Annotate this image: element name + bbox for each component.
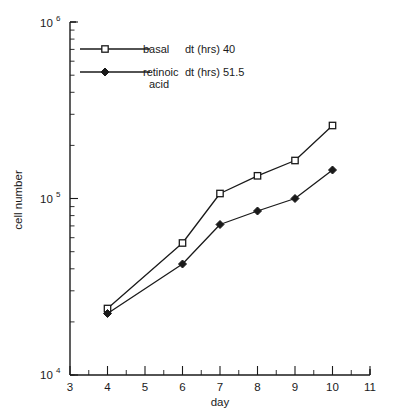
legend-marker-retinoic [101, 68, 109, 76]
x-axis-major-ticks [70, 366, 370, 375]
legend-marker-basal [102, 46, 108, 52]
y-axis-tick-labels: 10 6 10 5 10 4 [40, 14, 61, 381]
data-point-basal-day9 [292, 157, 298, 163]
y-tick-label-1e4-base: 10 [40, 369, 53, 381]
legend-label-retinoic-line2: acid [149, 78, 169, 90]
x-axis-tick-labels: 3 4 5 6 7 8 9 10 11 [67, 381, 376, 393]
legend-label-basal: basal [143, 43, 169, 55]
chart-legend: basal dt (hrs) 40 retinoic acid dt (hrs)… [80, 43, 244, 90]
y-tick-label-1e6-exponent: 6 [56, 14, 61, 23]
y-tick-label-1e5-exponent: 5 [56, 190, 61, 199]
data-point-basal-day10 [329, 122, 335, 128]
x-tick-label-7: 7 [217, 381, 223, 393]
legend-label-retinoic-line1: retinoic [143, 66, 179, 78]
data-point-basal-day6 [179, 240, 185, 246]
legend-dt-basal: dt (hrs) 40 [185, 43, 235, 55]
x-tick-label-6: 6 [179, 381, 185, 393]
y-tick-label-1e6-base: 10 [40, 17, 53, 29]
y-axis-title: cell number [12, 170, 24, 230]
x-tick-label-3: 3 [67, 381, 73, 393]
x-tick-label-10: 10 [326, 381, 339, 393]
x-tick-label-8: 8 [254, 381, 260, 393]
data-point-basal-day7 [217, 190, 223, 196]
x-tick-label-4: 4 [104, 381, 111, 393]
y-tick-label-1e5-base: 10 [40, 193, 53, 205]
x-tick-label-11: 11 [364, 381, 376, 393]
series-retinoic-acid [104, 166, 337, 318]
legend-dt-retinoic: dt (hrs) 51.5 [185, 66, 244, 78]
chart-figure: 10 6 10 5 10 4 3 4 5 6 7 8 9 10 11 day c… [0, 0, 399, 414]
y-tick-label-1e4-exponent: 4 [56, 366, 61, 375]
x-tick-label-5: 5 [142, 381, 148, 393]
data-point-retinoic-day8 [254, 207, 262, 215]
data-point-basal-day8 [254, 173, 260, 179]
series-basal-line [108, 126, 333, 309]
series-basal [104, 122, 335, 311]
x-axis-title: day [211, 396, 230, 408]
x-tick-label-9: 9 [292, 381, 298, 393]
line-chart: 10 6 10 5 10 4 3 4 5 6 7 8 9 10 11 day c… [0, 0, 399, 414]
